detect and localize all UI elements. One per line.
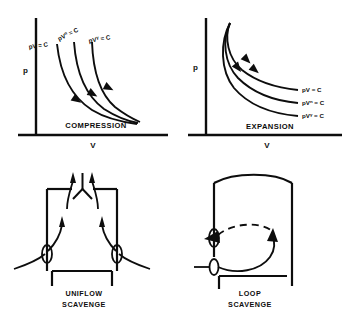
compression-caption: COMPRESSION [65,121,126,130]
uniflow-exhaust-flow-right [92,181,98,209]
uniflow-intake-supply-left [14,254,45,269]
compression-curve-isothermal [57,44,137,124]
chart-compression: pV = C pVn = C pVγ = C p V COMPRESSION [0,0,174,159]
uniflow-exhaust-flow-left [67,181,73,209]
loop-exhaust-arrow [204,231,220,243]
diagram-uniflow-scavenge: UNIFLOW SCAVENGE [0,159,174,318]
chart-expansion: pV = C pVn = C pVγ = C p V EXPANSION [174,0,348,159]
compression-curve-label-0: pV = C [28,40,49,50]
compression-curve-polytropic [74,42,138,123]
expansion-curve-isothermal [227,23,298,90]
compression-curve-label-2: pVγ = C [88,33,111,44]
uniflow-exhaust-valve-face-left [73,189,83,199]
loop-intake-port [210,259,219,275]
compression-y-axis-label: p [23,66,28,75]
loop-scavenge-flow [218,233,274,271]
expansion-curve-label-2: pVγ = C [302,112,324,119]
figure-two-stroke-scavenge-and-pv-diagrams: pV = C pVn = C pVγ = C p V COMPRESSION [0,0,348,318]
loop-caption-line2: SCAVENGE [228,300,272,309]
loop-caption-line1: LOOP [239,289,261,298]
uniflow-scavenge-arrow-left [59,216,65,227]
compression-arrow-3 [103,82,116,94]
uniflow-scavenge-arrow-right [99,216,105,227]
uniflow-caption-line1: UNIFLOW [65,289,102,298]
loop-exhaust-flow-dashed [218,225,272,235]
uniflow-exhaust-valve-face-right [83,189,93,199]
diagram-loop-scavenge: LOOP SCAVENGE [174,159,348,318]
expansion-arrow-2 [249,64,262,77]
compression-x-axis-label: V [90,141,96,150]
expansion-caption: EXPANSION [246,122,294,131]
uniflow-exhaust-arrow-right [89,172,95,183]
expansion-y-axis-label: p [193,63,198,72]
compression-curve-isentropic [92,42,140,122]
uniflow-exhaust-arrow-left [70,172,76,183]
expansion-curve-label-1: pVn = C [302,99,325,106]
expansion-curve-label-0: pV = C [302,86,322,93]
loop-cylinder-head [214,175,292,183]
expansion-arrow-1 [241,54,254,67]
loop-scavenge-arrow [267,228,278,242]
uniflow-intake-supply-right [119,254,150,269]
compression-curve-label-1: pVn = C [56,25,80,42]
uniflow-caption-line2: SCAVENGE [62,300,106,309]
expansion-x-axis-label: V [264,141,270,150]
